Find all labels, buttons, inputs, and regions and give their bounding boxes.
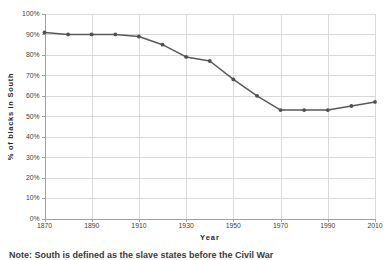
y-tick-label: 40%: [26, 133, 40, 140]
data-point-marker: [232, 78, 236, 82]
x-tick-label: 2010: [367, 222, 382, 229]
y-tick-label: 70%: [26, 72, 40, 79]
data-point-marker: [184, 55, 188, 59]
y-tick-label: 20%: [26, 174, 40, 181]
data-point-marker: [43, 31, 47, 35]
y-tick-label: 30%: [26, 154, 40, 161]
x-tick-label: 1970: [273, 222, 288, 229]
y-tick-label: 90%: [26, 31, 40, 38]
x-tick-label: 1890: [84, 222, 99, 229]
y-tick-label: 0%: [30, 215, 40, 222]
data-point-marker: [66, 33, 70, 37]
footnote-text: Note: South is defined as the slave stat…: [9, 250, 379, 260]
data-point-marker: [279, 108, 283, 112]
y-tick-label: 60%: [26, 92, 40, 99]
y-tick-label: 10%: [26, 194, 40, 201]
y-tick-label: 50%: [26, 113, 40, 120]
data-point-marker: [90, 33, 94, 37]
data-point-marker: [302, 108, 306, 112]
y-tick-label: 80%: [26, 51, 40, 58]
x-tick-label: 1990: [320, 222, 335, 229]
x-tick-label: 1930: [179, 222, 194, 229]
data-point-marker: [137, 35, 141, 39]
y-axis-title: % of blacks in South: [5, 15, 16, 219]
data-point-marker: [161, 43, 165, 47]
data-point-marker: [113, 33, 117, 37]
data-point-marker: [208, 59, 212, 63]
y-tick-label: 100%: [22, 10, 39, 17]
series-line: [45, 32, 376, 110]
x-tick-label: 1950: [226, 222, 241, 229]
x-tick-label: 1870: [37, 222, 52, 229]
data-point-marker: [326, 108, 330, 112]
data-point-marker: [255, 94, 259, 98]
x-tick-label: 1910: [131, 222, 146, 229]
data-point-marker: [373, 100, 377, 104]
x-axis-title: Year: [45, 233, 375, 243]
data-point-marker: [350, 104, 354, 108]
